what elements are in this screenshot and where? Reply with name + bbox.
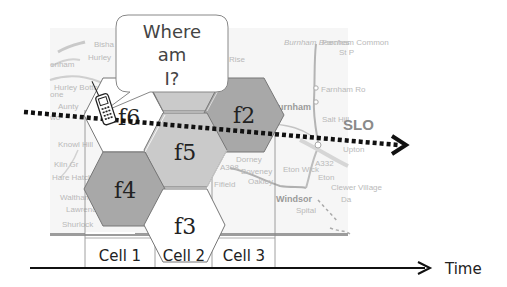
- hexagon-label-f3: f3: [174, 214, 196, 239]
- map-label-shurlock: Shurlock: [62, 220, 94, 229]
- map-label-farnham-common: Farnham Common: [322, 38, 389, 47]
- map-label-upton: Upton: [343, 145, 364, 154]
- cell-label-3: Cell 3: [223, 247, 265, 265]
- map-label-slough: SLO: [343, 116, 374, 133]
- hexagon-label-f4: f4: [114, 178, 136, 203]
- map-label-hurley: Hurley: [88, 53, 111, 62]
- map-label-bisham: Bisha: [94, 40, 115, 49]
- map-label-clewer-village: Clewer Village: [331, 183, 383, 192]
- map-label-stone: one: [50, 90, 64, 99]
- map-label-hare-hatch: Hare Hatch: [52, 173, 92, 182]
- time-axis-label: Time: [444, 260, 482, 278]
- map-label-aunty: Aunty: [58, 102, 78, 111]
- map-label-dorney: Dorney: [236, 155, 262, 164]
- map-label-oakley: Oakley: [248, 177, 273, 186]
- cell-labels: Cell 1 Cell 2 Cell 3: [99, 247, 265, 265]
- map-label-rise: Rise: [229, 55, 246, 64]
- hexagon-label-f2: f2: [233, 103, 255, 128]
- map-label-a308: A308: [220, 163, 239, 172]
- cell-label-2: Cell 2: [163, 247, 205, 265]
- map-label-a332: A332: [315, 159, 334, 168]
- hexagon-label-f6: f6: [118, 105, 140, 130]
- map-label-kiln-green: Kiln Gr: [54, 160, 79, 169]
- map-label-boveney: Boveney: [241, 167, 272, 176]
- map-label-st-p: St P: [339, 48, 354, 57]
- map-label-knowl-hill: Knowl Hill: [58, 140, 93, 149]
- hexagon-label-f5: f5: [174, 140, 196, 165]
- map-label-farnham-ro: Farnham Ro: [321, 85, 366, 94]
- speech-bubble-line-3: I?: [165, 68, 180, 89]
- cell-label-1: Cell 1: [99, 247, 141, 265]
- map-label-nham: enham: [50, 60, 75, 69]
- map-label-windsor: Windsor: [276, 194, 312, 204]
- map-label-burnham: urnham: [278, 102, 311, 112]
- cellular-localization-diagram: Bisha Hurley enham Hurley Bottom one Aun…: [0, 0, 507, 287]
- map-label-eton: Eton: [318, 173, 334, 182]
- speech-bubble-line-1: Where: [143, 21, 201, 42]
- speech-bubble-line-2: am: [158, 44, 187, 65]
- map-label-da: Da: [341, 195, 352, 204]
- map-label-fifield: Fifield: [214, 180, 235, 189]
- map-label-spital: Spital: [296, 206, 316, 215]
